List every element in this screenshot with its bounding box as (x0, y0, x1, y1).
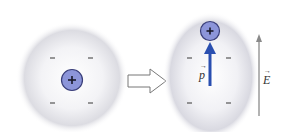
vector-arrow-mark: → (264, 68, 271, 75)
left-atom (16, 22, 128, 132)
diagram-canvas (0, 0, 289, 132)
right-atom (163, 12, 259, 132)
nucleus-plus-icon (201, 22, 220, 41)
hollow-right-arrow-icon (128, 69, 166, 93)
field-label: → E (263, 74, 270, 86)
dipole-label: → p (199, 69, 205, 81)
vector-arrow-mark: → (200, 63, 207, 70)
dipole-diagram: → p → E (0, 0, 289, 132)
nucleus-plus-icon (62, 70, 83, 91)
